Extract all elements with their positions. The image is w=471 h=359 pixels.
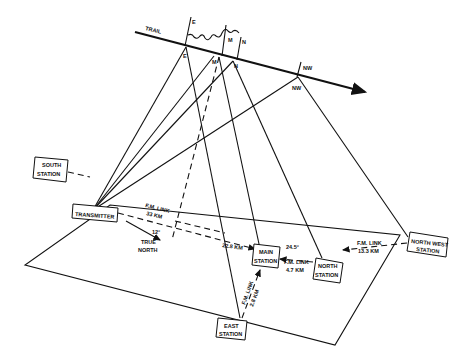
point-label-e: E xyxy=(183,53,187,59)
ray-transmitter-n xyxy=(93,61,233,210)
svg-text:SOUTH: SOUTH xyxy=(42,162,61,168)
tick-label-nw: NW xyxy=(303,65,313,71)
northwest-station: NORTH WEST STATION xyxy=(407,232,449,257)
svg-text:STATION: STATION xyxy=(254,258,277,264)
east-station: EAST STATION xyxy=(216,318,247,340)
transmitter: TRANSMITTER xyxy=(72,204,118,222)
dashed-m-projection xyxy=(172,57,219,240)
point-label-nw: NW xyxy=(292,85,302,91)
trail-station-diagram: TRAIL E M N NW E M N NW SOUTH STATION TR… xyxy=(0,0,471,359)
svg-text:MAIN: MAIN xyxy=(259,249,273,255)
svg-text:STATION: STATION xyxy=(315,272,338,278)
true-north-label-2: NORTH xyxy=(138,247,158,253)
ray-transmitter-e xyxy=(93,47,186,210)
tick-e xyxy=(185,17,191,46)
point-label-m: M xyxy=(212,59,217,65)
bearing-angle: 12° xyxy=(152,229,160,235)
link-distance-nwn: 13.3 KM xyxy=(358,248,379,254)
north-station: NORTH STATION xyxy=(313,258,343,283)
ray-northwest-nw xyxy=(298,77,408,237)
link-distance-main-segment: 22.8 KM xyxy=(222,242,244,251)
dashed-south-link xyxy=(68,172,90,177)
main-station: MAIN STATION xyxy=(252,244,280,268)
ray-main-m xyxy=(219,57,262,258)
tick-label-m: M xyxy=(228,37,233,43)
svg-text:EAST: EAST xyxy=(224,323,239,329)
svg-text:STATION: STATION xyxy=(219,331,242,337)
true-north-label-1: TRUE xyxy=(141,239,156,245)
link-label-nwn: F.M. LINK xyxy=(357,240,382,246)
trail-label: TRAIL xyxy=(145,25,163,35)
ray-transmitter-m xyxy=(93,56,214,210)
dashed-upper-link xyxy=(175,221,225,233)
svg-text:STATION: STATION xyxy=(37,171,60,177)
ray-east-e xyxy=(186,47,240,318)
trail-line xyxy=(135,32,365,92)
link-distance-nm: 4.7 KM xyxy=(286,267,304,273)
south-station: SOUTH STATION xyxy=(33,157,68,182)
tick-n xyxy=(237,37,241,60)
svg-text:NORTH: NORTH xyxy=(318,263,338,269)
tick-label-e: E xyxy=(192,19,196,25)
ground-plane xyxy=(25,205,400,345)
tick-label-n: N xyxy=(242,39,246,45)
link-label-nm: F.M. LINK xyxy=(284,259,309,265)
north-angle: 24.5° xyxy=(286,244,299,250)
